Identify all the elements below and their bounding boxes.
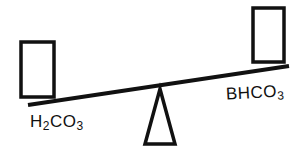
left-weight-box [21, 42, 54, 97]
fulcrum-triangle [145, 89, 175, 144]
label-bhco3: BHCO3 [225, 81, 284, 105]
seesaw-diagram: H2CO3 BHCO3 [0, 0, 306, 157]
label-text: H [30, 112, 43, 131]
label-subscript: 3 [277, 88, 285, 102]
label-subscript: 3 [76, 119, 83, 133]
label-text: CO [50, 112, 77, 131]
label-subscript: 2 [43, 119, 50, 133]
seesaw-drawing [0, 0, 306, 157]
right-weight-box [253, 8, 284, 62]
label-h2co3: H2CO3 [30, 112, 84, 133]
label-text: BHCO [225, 82, 277, 104]
